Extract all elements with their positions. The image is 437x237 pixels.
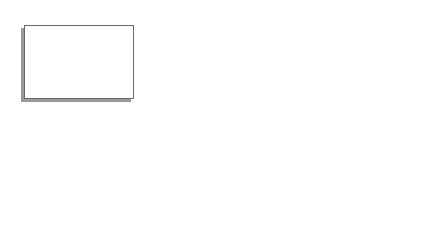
- stressors-panel: [24, 25, 134, 99]
